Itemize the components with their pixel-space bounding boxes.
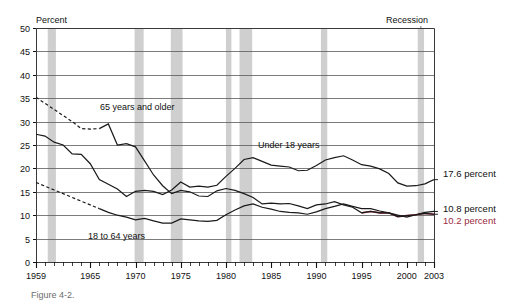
x-tick-label-1995: 1995 (352, 271, 372, 281)
y-tick-label-45: 45 (20, 47, 30, 57)
recession-band-3 (171, 28, 183, 262)
x-tick-label-1990: 1990 (306, 271, 326, 281)
x-tick-labels: 1959196519701975198019851990199520002003 (26, 271, 444, 281)
end-value-65-plus: 10.2 percent (443, 216, 496, 226)
recession-band-2 (135, 28, 144, 262)
y-tick-label-30: 30 (20, 118, 30, 128)
y-tick-label-15: 15 (20, 188, 30, 198)
x-tick-label-1965: 1965 (80, 271, 100, 281)
y-tick-label-35: 35 (20, 94, 30, 104)
recession-band-4 (226, 28, 231, 262)
y-tick-label-5: 5 (25, 235, 30, 245)
recession-band-6 (321, 28, 327, 262)
x-tick-label-1959: 1959 (26, 271, 46, 281)
y-tick-label-20: 20 (20, 164, 30, 174)
recession-band-7 (418, 28, 424, 262)
y-tick-label-50: 50 (20, 24, 30, 34)
y-tick-label-10: 10 (20, 211, 30, 221)
x-tick-label-2003: 2003 (424, 271, 444, 281)
series-label-65-plus: 65 years and older (100, 103, 175, 112)
x-tick-label-1980: 1980 (216, 271, 236, 281)
x-tick-label-1970: 1970 (125, 271, 145, 281)
y-tick-label-0: 0 (25, 258, 30, 268)
y-tick-label-40: 40 (20, 71, 30, 81)
end-value-under-18: 17.6 percent (443, 169, 496, 179)
recession-band-1 (48, 28, 56, 262)
x-tick-label-2000: 2000 (397, 271, 417, 281)
y-tick-label-25: 25 (20, 141, 30, 151)
recession-band-5 (240, 28, 253, 262)
series-label-18-to-64: 18 to 64 years (88, 232, 145, 241)
x-tick-label-1985: 1985 (261, 271, 281, 281)
series-label-under-18: Under 18 years (258, 141, 320, 150)
figure-caption: Figure 4-2. (31, 290, 75, 300)
end-value-18-to-64: 10.8 percent (443, 204, 496, 214)
plot-background (36, 28, 434, 262)
x-tick-label-1975: 1975 (171, 271, 191, 281)
